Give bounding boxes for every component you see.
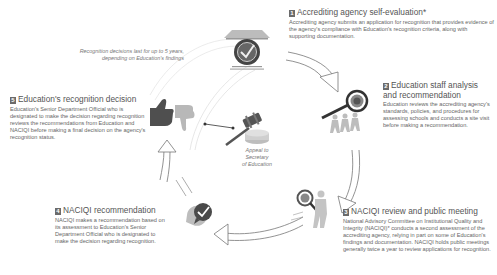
step-number-badge: 4: [55, 208, 61, 215]
step-1-description: Accrediting agency submits an applicatio…: [289, 19, 494, 40]
step-4: 4NACIQI recommendation NACIQI makes a re…: [55, 206, 167, 245]
step-1-title: 1Accrediting agency self-evaluation*: [289, 8, 494, 18]
appeal-label: Appeal to Secretary of Education: [232, 147, 282, 168]
step-1-title-text: Accrediting agency self-evaluation*: [297, 7, 426, 17]
thumbs-up-down-icon: [150, 99, 195, 131]
step-1: 1Accrediting agency self-evaluation* Acc…: [289, 8, 494, 40]
step-5-title: 5Education's recognition decision: [10, 95, 150, 105]
arrow-step2-to-step3: [338, 150, 360, 213]
step-5-description: Education's Senior Department Official w…: [10, 106, 150, 141]
appeal-line-2: Secretary: [232, 154, 282, 161]
arrow-step1-to-step2: [286, 52, 338, 92]
certificate-seal-icon: [224, 30, 270, 70]
step-number-badge: 5: [10, 97, 16, 104]
step-number-badge: 1: [289, 10, 295, 17]
step-2-title: 2Education staff analysis and recommenda…: [383, 81, 495, 100]
step-3-title-text: NACIQI review and public meeting: [351, 206, 478, 216]
people-magnifier-icon: [322, 91, 367, 133]
step-5: 5Education's recognition decision Educat…: [10, 95, 150, 141]
step-3-description: National Advisory Committee on Instituti…: [343, 218, 495, 253]
speaking-head-checkmark-icon: [186, 203, 212, 226]
appeal-connector: [204, 123, 235, 130]
step-2-title-line-1: Education staff analysis: [391, 80, 478, 90]
step-5-title-text: Education's recognition decision: [18, 94, 136, 104]
step-4-title-text: NACIQI recommendation: [63, 205, 156, 215]
step-2-description: Education reviews the accrediting agency…: [383, 101, 495, 129]
note-line-1: Recognition decisions last for up to 5 y…: [58, 48, 184, 55]
arrow-step3-to-step4: [214, 217, 303, 245]
note-line-2: depending on Education's findings: [58, 55, 184, 62]
step-number-badge: 3: [343, 209, 349, 216]
step-2: 2Education staff analysis and recommenda…: [383, 81, 495, 129]
step-number-badge: 2: [383, 83, 389, 90]
arrow-step4-to-step5: [158, 140, 176, 182]
step-3: 3NACIQI review and public meeting Nation…: [343, 207, 495, 253]
person-magnifier-icon: [291, 191, 327, 229]
speech-lines: [176, 177, 192, 196]
step-3-title: 3NACIQI review and public meeting: [343, 207, 495, 217]
step-2-title-line-2: and recommendation: [383, 91, 495, 101]
step-4-description: NACIQI makes a recommendation based on i…: [55, 217, 167, 245]
appeal-line-1: Appeal to: [232, 147, 282, 154]
recognition-duration-note: Recognition decisions last for up to 5 y…: [58, 48, 184, 62]
step-4-title: 4NACIQI recommendation: [55, 206, 167, 216]
appeal-line-3: of Education: [232, 161, 282, 168]
